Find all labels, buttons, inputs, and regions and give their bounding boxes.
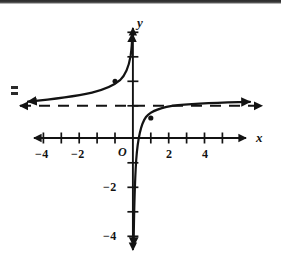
marked-point [148, 115, 153, 120]
origin-label: O [118, 146, 127, 158]
graph-figure: x y O −4 −2 2 4 −2 −4 [0, 0, 281, 269]
x-tick-label-neg4: −4 [35, 148, 49, 160]
coordinate-plane [0, 0, 281, 269]
y-axis-label: y [137, 16, 143, 29]
x-axis-label: x [256, 131, 263, 144]
x-tick-label-neg2: −2 [71, 148, 85, 160]
x-tick-label-2: 2 [166, 148, 173, 160]
y-tick-label-neg2: −2 [103, 181, 117, 193]
curve-right-branch [134, 102, 250, 246]
curve-left-branch [28, 34, 132, 102]
marked-point [113, 79, 118, 84]
y-tick-label-neg4: −4 [103, 230, 117, 242]
x-tick-label-4: 4 [202, 148, 209, 160]
